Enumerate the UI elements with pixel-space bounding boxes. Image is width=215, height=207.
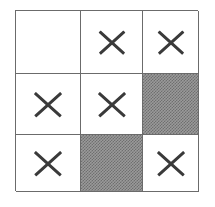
grid-cell-r3c1[interactable]: cross bbox=[16, 135, 81, 192]
cross-icon bbox=[154, 26, 187, 59]
cross-icon bbox=[31, 87, 66, 122]
cross-icon bbox=[95, 26, 128, 59]
grid-cell-r2c3[interactable]: shaded bbox=[143, 74, 199, 135]
grid-cell-r1c2[interactable]: cross bbox=[81, 11, 143, 74]
grid-3x3: empty cross cross cross cross shaded cro… bbox=[15, 10, 198, 191]
grid-cell-r1c1[interactable]: empty bbox=[16, 11, 81, 74]
grid-cell-r1c3[interactable]: cross bbox=[143, 11, 199, 74]
cross-icon bbox=[94, 87, 129, 122]
grid-cell-r3c3[interactable]: cross bbox=[143, 135, 199, 192]
cross-icon bbox=[31, 146, 66, 181]
diagram-canvas: empty cross cross cross cross shaded cro… bbox=[0, 0, 215, 207]
grid-cell-r3c2[interactable]: shaded bbox=[81, 135, 143, 192]
grid-cell-r2c2[interactable]: cross bbox=[81, 74, 143, 135]
grid-cell-r2c1[interactable]: cross bbox=[16, 74, 81, 135]
cross-icon bbox=[153, 146, 188, 181]
